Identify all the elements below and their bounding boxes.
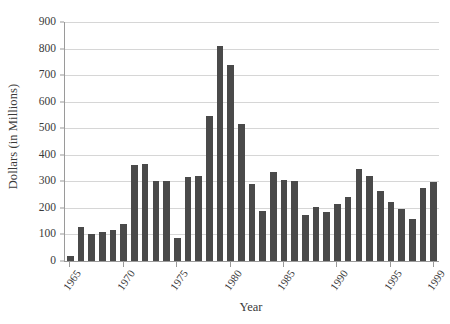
bar [206, 116, 213, 261]
y-tick-label: 300 [39, 176, 56, 188]
bar [420, 188, 427, 261]
x-tick-label: 1980 [222, 268, 244, 292]
x-tick-mark [123, 262, 124, 267]
x-tick-mark [433, 262, 434, 267]
bar [99, 232, 106, 261]
y-tick-label: 500 [39, 122, 56, 134]
bar [174, 238, 181, 261]
bar [110, 230, 117, 261]
x-tick-mark [283, 262, 284, 267]
x-tick-mark [390, 262, 391, 267]
plot-area [64, 22, 439, 262]
y-tick-label: 0 [50, 255, 56, 267]
y-axis-title-text: Dollars (in Millions) [7, 83, 22, 189]
x-tick-label: 1965 [62, 268, 84, 292]
bar [345, 197, 352, 261]
x-axis-title: Year [64, 300, 438, 315]
bar [153, 181, 160, 261]
bar [217, 46, 224, 261]
x-tick-label: 1985 [275, 268, 297, 292]
bar [377, 191, 384, 261]
bar [249, 184, 256, 261]
bar [142, 164, 149, 261]
bar [291, 181, 298, 261]
x-tick-label: 1970 [115, 268, 137, 292]
bar [313, 207, 320, 261]
y-axis-tick-labels: 0100200300400500600700800900 [24, 0, 60, 272]
x-tick-label: 1999 [425, 268, 447, 292]
bar [195, 176, 202, 261]
bar [163, 181, 170, 261]
y-tick-label: 600 [39, 96, 56, 108]
bar [88, 234, 95, 261]
x-tick-mark [230, 262, 231, 267]
y-tick-label: 800 [39, 43, 56, 55]
bars-layer [65, 22, 439, 261]
bar [409, 219, 416, 261]
bar [131, 165, 138, 261]
bar [430, 182, 437, 261]
x-tick-label: 1975 [169, 268, 191, 292]
bar-chart: Dollars (in Millions) 010020030040050060… [0, 0, 450, 324]
x-tick-mark [176, 262, 177, 267]
x-tick-label: 1995 [382, 268, 404, 292]
y-tick-label: 100 [39, 229, 56, 241]
bar [120, 224, 127, 261]
bar [302, 215, 309, 261]
bar [185, 177, 192, 261]
y-tick-label: 400 [39, 149, 56, 161]
y-axis-title: Dollars (in Millions) [2, 0, 26, 272]
bar [366, 176, 373, 261]
bar [259, 211, 266, 261]
bar [398, 209, 405, 261]
bar [67, 256, 74, 261]
x-tick-mark [69, 262, 70, 267]
x-tick-mark [336, 262, 337, 267]
bar [334, 204, 341, 261]
y-tick-label: 200 [39, 202, 56, 214]
bar [388, 202, 395, 261]
x-tick-label: 1990 [329, 268, 351, 292]
bar [238, 124, 245, 261]
bar [78, 227, 85, 261]
y-tick-label: 900 [39, 16, 56, 28]
bar [227, 65, 234, 262]
y-tick-label: 700 [39, 69, 56, 81]
bar [270, 172, 277, 261]
bar [323, 212, 330, 261]
bar [281, 180, 288, 261]
bar [356, 169, 363, 261]
